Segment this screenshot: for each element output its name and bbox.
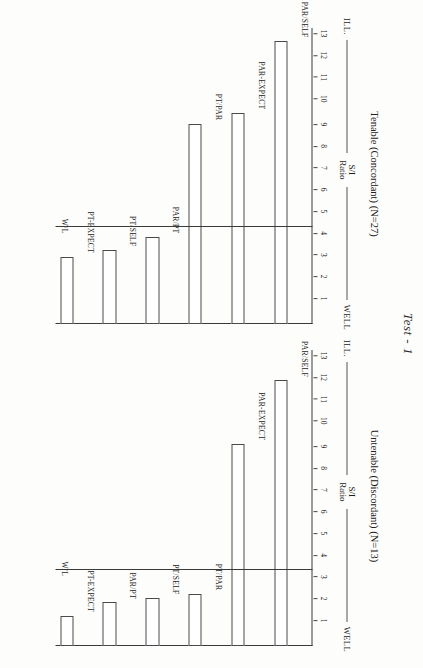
bar-row	[145, 28, 158, 324]
axis-tick-9: 9	[313, 123, 327, 127]
scanned-page: Test - 1 Tenable (Concordant) (N=27) ILL…	[0, 0, 423, 668]
page-title: Test - 1	[399, 0, 415, 668]
bar-label: PAR/PT	[170, 207, 179, 234]
axis-tick-label: 10	[318, 95, 327, 103]
bar-row	[188, 28, 201, 324]
bar-label: PT/SELF	[127, 216, 136, 246]
bar-row	[145, 350, 158, 646]
bar-row	[60, 28, 73, 324]
bar-label: PAR/PT	[127, 572, 136, 599]
axis-low-label: ILL.	[341, 18, 351, 35]
axis-low-label: ILL.	[341, 340, 351, 357]
axis-tick-7: 7	[313, 488, 327, 492]
axis-tick-label: 9	[318, 445, 327, 449]
axis-tick-label: 7	[318, 488, 327, 492]
axis-tick-10: 10	[313, 95, 327, 103]
axis-tick-2: 2	[313, 597, 327, 601]
bar-row	[188, 350, 201, 646]
axis-tick-label: 13	[318, 30, 327, 38]
axis-tick-label: 8	[318, 144, 327, 148]
axis-tick-label: 12	[318, 52, 327, 60]
axis-tick-label: 3	[318, 575, 327, 579]
axis-tick-label: 11	[318, 396, 327, 403]
axis-tick-1: 1	[313, 619, 327, 623]
axis-tick-4: 4	[313, 553, 327, 557]
bar-series: PAR/SELFPAR-EXPECTPT/PARPT/SELFPAR/PTPT-…	[55, 350, 312, 646]
reference-line-label: W/L	[59, 561, 68, 576]
chart-title: Tenable (Concordant) (N=27)	[368, 18, 379, 330]
bar-row	[60, 350, 73, 646]
axis-tick-label: 5	[318, 210, 327, 214]
bar-label: PAR/SELF	[299, 2, 308, 38]
bar-label: PAR-EXPECT	[256, 392, 265, 440]
bar-par-self	[274, 380, 287, 646]
page-content: Test - 1 Tenable (Concordant) (N=27) ILL…	[0, 0, 423, 668]
axis-tick-label: 11	[318, 74, 327, 81]
axis-tick-label: 6	[318, 188, 327, 192]
axis-tick-2: 2	[313, 275, 327, 279]
bar-par-pt	[102, 602, 115, 646]
reference-line-wl	[55, 226, 312, 227]
plot-area: 12345678910111213 PAR/SELFPAR-EXPECTPT/P…	[55, 350, 327, 646]
bar-label: PT-EXPECT	[85, 570, 94, 612]
bar-label: PT/PAR	[213, 94, 222, 121]
axis-tick-label: 8	[318, 466, 327, 470]
chart-tenable: Tenable (Concordant) (N=27) ILL. S/I Rat…	[49, 18, 379, 330]
scale-band: ILL. S/I Ratio WELL	[333, 340, 359, 652]
bar-par-expect	[231, 113, 244, 324]
axis-tick-6: 6	[313, 510, 327, 514]
axis-tick-label: 4	[318, 231, 327, 235]
bar-row	[274, 28, 287, 324]
axis-name-line2: Ratio	[337, 482, 347, 502]
axis-tick-5: 5	[313, 210, 327, 214]
bar-pt-self	[145, 598, 158, 646]
axis-high-label: WELL	[341, 627, 351, 652]
axis-tick-12: 12	[313, 374, 327, 382]
bar-par-expect	[231, 444, 244, 646]
bar-label: PAR-EXPECT	[256, 62, 265, 110]
scale-rule-left	[347, 40, 348, 153]
bar-label: PT-EXPECT	[85, 211, 94, 253]
axis-tick-13: 13	[313, 30, 327, 38]
scale-rule-right	[347, 509, 348, 622]
bar-pt-self	[102, 250, 115, 324]
axis-tick-13: 13	[313, 352, 327, 360]
axis-name: S/I Ratio	[337, 158, 355, 182]
bar-label: PT/PAR	[213, 564, 222, 591]
bar-label: PAR/SELF	[299, 341, 308, 377]
x-axis-ticks: 12345678910111213	[312, 28, 327, 324]
axis-tick-label: 1	[318, 297, 327, 301]
axis-tick-label: 13	[318, 352, 327, 360]
axis-tick-10: 10	[313, 417, 327, 425]
axis-name: S/I Ratio	[337, 480, 355, 504]
axis-tick-6: 6	[313, 188, 327, 192]
axis-high-label: WELL	[341, 305, 351, 330]
bar-par-pt	[145, 237, 158, 324]
axis-tick-label: 12	[318, 374, 327, 382]
bar-pt-expect	[60, 257, 73, 324]
axis-tick-label: 4	[318, 553, 327, 557]
axis-tick-8: 8	[313, 144, 327, 148]
axis-tick-label: 2	[318, 597, 327, 601]
axis-tick-4: 4	[313, 231, 327, 235]
bar-par-self	[274, 41, 287, 324]
bar-row	[102, 350, 115, 646]
chart-untenable: Untenable (Discordant) (N=13) ILL. S/I R…	[49, 340, 379, 652]
axis-tick-label: 7	[318, 166, 327, 170]
scale-rule-right	[347, 187, 348, 300]
axis-tick-11: 11	[313, 396, 327, 403]
axis-tick-label: 2	[318, 275, 327, 279]
plot-area: 12345678910111213 PAR/SELFPAR-EXPECTPT/P…	[55, 28, 327, 324]
axis-tick-3: 3	[313, 253, 327, 257]
axis-name-line2: Ratio	[337, 160, 347, 180]
bar-row	[231, 350, 244, 646]
reference-line-wl	[55, 569, 312, 570]
axis-tick-1: 1	[313, 297, 327, 301]
axis-tick-7: 7	[313, 166, 327, 170]
axis-tick-label: 6	[318, 510, 327, 514]
bar-row	[274, 350, 287, 646]
axis-tick-9: 9	[313, 445, 327, 449]
reference-line-label: W/L	[59, 219, 68, 234]
axis-tick-label: 1	[318, 619, 327, 623]
axis-tick-label: 9	[318, 123, 327, 127]
